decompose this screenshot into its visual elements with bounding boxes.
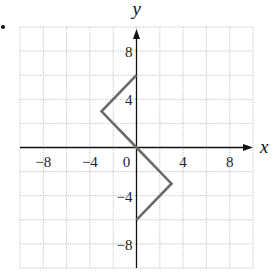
y-tick-label: 8 xyxy=(125,44,133,60)
y-tick-label: −4 xyxy=(117,189,133,205)
x-tick-label: −4 xyxy=(82,154,98,170)
x-axis-arrow-icon xyxy=(243,144,253,151)
coordinate-plot: −8−404884−4−8 x y xyxy=(0,0,275,275)
x-tick-label: 8 xyxy=(226,154,234,170)
x-tick-label: −8 xyxy=(35,154,51,170)
x-axis-label: x xyxy=(259,136,269,157)
x-tick-label: 0 xyxy=(123,154,131,170)
y-tick-label: −8 xyxy=(117,237,133,253)
y-tick-label: 4 xyxy=(125,92,133,108)
x-tick-label: 4 xyxy=(179,154,187,170)
y-axis-label: y xyxy=(131,0,142,19)
bullet-marker xyxy=(1,25,5,29)
y-axis-arrow-icon xyxy=(133,29,140,39)
